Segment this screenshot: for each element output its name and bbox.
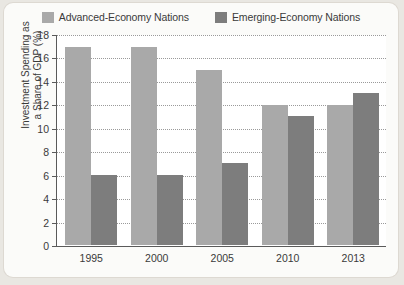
y-tick-label: 4 (43, 193, 49, 205)
x-tick-label: 2010 (262, 252, 314, 264)
y-tick-mark (52, 82, 57, 83)
y-tick-label: 14 (37, 76, 49, 88)
y-tick-label: 2 (43, 217, 49, 229)
bar-group: 2010 (255, 35, 321, 245)
y-tick-label: 16 (37, 52, 49, 64)
bar-advanced-2013 (327, 105, 353, 245)
bar-groups: 19952000200520102013 (59, 35, 387, 245)
bar-group-inner: 2005 (196, 35, 248, 245)
y-tick-label: 0 (43, 240, 49, 252)
y-tick-mark (52, 199, 57, 200)
y-tick-label: 8 (43, 146, 49, 158)
y-tick-mark (52, 58, 57, 59)
bar-emerging-1995 (91, 175, 117, 245)
bar-group-inner: 2013 (327, 35, 379, 245)
bar-group: 1995 (59, 35, 125, 245)
x-tick-label: 1995 (65, 252, 117, 264)
y-tick-label: 10 (37, 123, 49, 135)
plot-area-wrapper: 181614121086420 19952000200520102013 (56, 35, 386, 247)
chart-figure: Advanced-Economy Nations Emerging-Econom… (0, 0, 404, 285)
y-tick-label: 18 (37, 29, 49, 41)
legend-label-emerging: Emerging-Economy Nations (232, 11, 360, 23)
bar-group-inner: 2000 (131, 35, 183, 245)
bar-emerging-2013 (353, 93, 379, 244)
y-tick-mark (52, 105, 57, 106)
x-tick-label: 2005 (196, 252, 248, 264)
y-tick-label: 6 (43, 170, 49, 182)
bar-advanced-1995 (65, 47, 91, 245)
bar-emerging-2005 (222, 163, 248, 244)
plot-area: 181614121086420 19952000200520102013 (56, 35, 386, 247)
y-tick-mark (52, 35, 57, 36)
bar-advanced-2010 (262, 105, 288, 245)
bar-group: 2013 (321, 35, 387, 245)
bar-advanced-2000 (131, 47, 157, 245)
y-axis-title-line-1: Investment Spending as (20, 21, 33, 128)
bar-group: 2005 (190, 35, 256, 245)
y-tick-mark (52, 246, 57, 247)
bar-emerging-2010 (288, 116, 314, 244)
bar-group-inner: 1995 (65, 35, 117, 245)
y-tick-label: 12 (37, 99, 49, 111)
bar-group-inner: 2010 (262, 35, 314, 245)
x-tick-label: 2013 (327, 252, 379, 264)
legend-swatch-emerging (215, 12, 227, 23)
legend-label-advanced: Advanced-Economy Nations (59, 11, 189, 23)
chart-panel: Advanced-Economy Nations Emerging-Econom… (4, 3, 398, 277)
chart-legend: Advanced-Economy Nations Emerging-Econom… (4, 11, 398, 23)
x-tick-label: 2000 (131, 252, 183, 264)
bar-emerging-2000 (157, 175, 183, 245)
legend-item-advanced: Advanced-Economy Nations (42, 11, 189, 23)
bar-advanced-2005 (196, 70, 222, 245)
y-tick-mark (52, 176, 57, 177)
y-tick-mark (52, 129, 57, 130)
y-tick-mark (52, 223, 57, 224)
bar-group: 2000 (124, 35, 190, 245)
legend-item-emerging: Emerging-Economy Nations (215, 11, 360, 23)
y-tick-mark (52, 152, 57, 153)
